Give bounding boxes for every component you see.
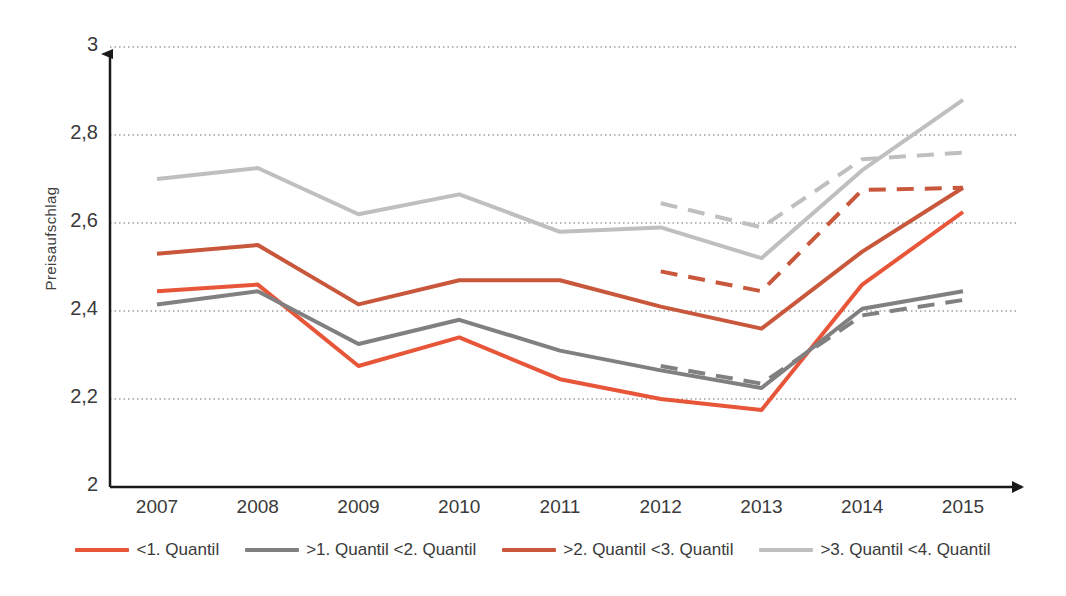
x-tick-label: 2007 bbox=[112, 496, 202, 518]
legend-label: >3. Quantil <4. Quantil bbox=[820, 540, 990, 560]
chart-legend: <1. Quantil>1. Quantil <2. Quantil>2. Qu… bbox=[0, 540, 1066, 560]
legend-label: >1. Quantil <2. Quantil bbox=[306, 540, 476, 560]
legend-swatch-icon bbox=[502, 548, 556, 552]
series-line bbox=[157, 100, 963, 258]
gridlines bbox=[110, 47, 1018, 487]
x-tick-label: 2013 bbox=[717, 496, 807, 518]
x-tick-label: 2015 bbox=[918, 496, 1008, 518]
x-tick-label: 2008 bbox=[213, 496, 303, 518]
x-tick-label: 2011 bbox=[515, 496, 605, 518]
legend-swatch-icon bbox=[759, 548, 813, 552]
legend-item[interactable]: <1. Quantil bbox=[75, 540, 219, 560]
legend-swatch-icon bbox=[245, 548, 299, 552]
series-line bbox=[661, 300, 963, 384]
x-tick-label: 2010 bbox=[414, 496, 504, 518]
legend-label: >2. Quantil <3. Quantil bbox=[563, 540, 733, 560]
x-tick-label: 2012 bbox=[616, 496, 706, 518]
y-tick-label: 2 bbox=[52, 473, 98, 496]
legend-label: <1. Quantil bbox=[136, 540, 219, 560]
y-tick-label: 2,4 bbox=[52, 297, 98, 320]
chart-container: Preisaufschlag 22,22,42,62,83 2007200820… bbox=[0, 0, 1066, 596]
x-tick-label: 2014 bbox=[817, 496, 907, 518]
legend-item[interactable]: >1. Quantil <2. Quantil bbox=[245, 540, 476, 560]
legend-swatch-icon bbox=[75, 548, 129, 552]
legend-item[interactable]: >2. Quantil <3. Quantil bbox=[502, 540, 733, 560]
y-tick-label: 2,8 bbox=[52, 121, 98, 144]
series-line bbox=[157, 291, 963, 388]
series-lines bbox=[157, 100, 963, 410]
legend-item[interactable]: >3. Quantil <4. Quantil bbox=[759, 540, 990, 560]
y-tick-label: 3 bbox=[52, 33, 98, 56]
y-tick-label: 2,6 bbox=[52, 209, 98, 232]
y-tick-label: 2,2 bbox=[52, 385, 98, 408]
x-tick-label: 2009 bbox=[314, 496, 404, 518]
